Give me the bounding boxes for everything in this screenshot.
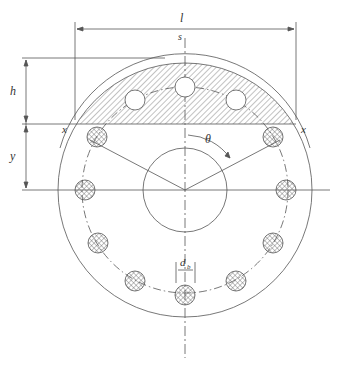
bolt	[75, 180, 95, 200]
label-theta: θ	[205, 132, 211, 146]
bolt	[175, 285, 195, 305]
bolt	[263, 127, 283, 147]
bolt	[263, 233, 283, 253]
bolt	[276, 180, 296, 200]
bolt	[226, 271, 246, 291]
diagram-canvas: l s h y x x θ d b	[0, 0, 346, 376]
bolt-hole-upper-left	[125, 90, 145, 110]
label-d-sub: b	[187, 263, 191, 271]
label-x-right: x	[300, 123, 306, 135]
label-s: s	[178, 31, 182, 42]
bolt	[125, 271, 145, 291]
bolt	[88, 233, 108, 253]
hatched-segment	[40, 0, 340, 124]
label-h: h	[10, 84, 16, 98]
label-y: y	[9, 149, 16, 163]
label-x-left: x	[61, 123, 67, 135]
label-d: d	[180, 256, 186, 268]
bolt-hole-upper-right	[226, 90, 246, 110]
bolt-hole-top	[175, 77, 195, 97]
flange-bolt-diagram: l s h y x x θ d b	[0, 0, 346, 376]
label-l: l	[180, 11, 184, 25]
bolt	[87, 127, 107, 147]
